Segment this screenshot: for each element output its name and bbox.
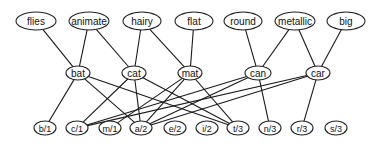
edge-metallic-can bbox=[263, 30, 289, 67]
node-label: r/3 bbox=[297, 124, 308, 134]
edge-metallic-car bbox=[299, 30, 315, 66]
edge-hairy-cat bbox=[135, 30, 141, 66]
node-label: e/2 bbox=[169, 124, 182, 134]
letter-node-r3: r/3 bbox=[291, 121, 313, 135]
attribute-node-flat: flat bbox=[175, 12, 213, 30]
letter-node-i2: i/2 bbox=[196, 121, 218, 135]
edge-cat-t3 bbox=[143, 78, 230, 124]
letter-nodes-layer: b/1c/1m/1a/2e/2i/2t/3n/3r/3s/3 bbox=[34, 121, 347, 135]
word-node-car: car bbox=[306, 66, 330, 80]
edge-flat-mat bbox=[191, 30, 194, 66]
letter-node-m1: m/1 bbox=[99, 121, 121, 135]
node-label: a/2 bbox=[135, 124, 148, 134]
letter-node-n3: n/3 bbox=[259, 121, 281, 135]
word-node-bat: bat bbox=[66, 66, 90, 80]
letter-node-a2: a/2 bbox=[130, 121, 152, 135]
attribute-node-round: round bbox=[224, 12, 262, 30]
node-label: m/1 bbox=[102, 124, 117, 134]
letter-node-t3: t/3 bbox=[227, 121, 249, 135]
edge-cat-c1 bbox=[83, 79, 128, 122]
edge-hairy-mat bbox=[150, 29, 185, 67]
edge-round-can bbox=[246, 30, 256, 66]
attribute-node-hairy: hairy bbox=[123, 12, 161, 30]
node-label: metallic bbox=[278, 16, 312, 27]
node-label: hairy bbox=[131, 16, 153, 27]
attribute-nodes-layer: fliesanimatehairyflatroundmetallicbig bbox=[16, 12, 365, 30]
word-nodes-layer: batcatmatcancar bbox=[66, 66, 330, 80]
attribute-node-metallic: metallic bbox=[275, 12, 315, 30]
edge-flies-bat bbox=[43, 29, 73, 66]
node-label: n/3 bbox=[264, 124, 277, 134]
letter-node-e2: e/2 bbox=[164, 121, 186, 135]
node-label: can bbox=[250, 68, 266, 79]
edge-bat-b1 bbox=[49, 80, 74, 122]
node-label: t/3 bbox=[233, 124, 243, 134]
edge-animate-cat bbox=[96, 29, 128, 66]
node-label: round bbox=[230, 16, 256, 27]
node-label: c/1 bbox=[71, 124, 83, 134]
letter-node-s3: s/3 bbox=[325, 121, 347, 135]
node-label: big bbox=[339, 16, 352, 27]
node-label: flies bbox=[27, 16, 45, 27]
attribute-node-big: big bbox=[327, 12, 365, 30]
node-label: i/2 bbox=[202, 124, 212, 134]
node-label: bat bbox=[71, 68, 85, 79]
letter-node-c1: c/1 bbox=[66, 121, 88, 135]
word-node-cat: cat bbox=[122, 66, 146, 80]
node-label: b/1 bbox=[39, 124, 52, 134]
letter-node-b1: b/1 bbox=[34, 121, 56, 135]
node-label: s/3 bbox=[330, 124, 342, 134]
node-label: animate bbox=[71, 16, 107, 27]
node-label: car bbox=[311, 68, 326, 79]
edge-big-car bbox=[322, 30, 342, 67]
edge-car-r3 bbox=[304, 80, 316, 121]
edge-car-c1 bbox=[87, 76, 306, 126]
edge-can-c1 bbox=[87, 76, 247, 125]
word-node-mat: mat bbox=[178, 66, 202, 80]
node-label: mat bbox=[182, 68, 199, 79]
word-node-can: can bbox=[245, 66, 271, 80]
edge-animate-bat bbox=[79, 30, 87, 66]
node-label: cat bbox=[127, 68, 141, 79]
network-diagram: fliesanimatehairyflatroundmetallicbig ba… bbox=[0, 0, 379, 144]
attribute-node-flies: flies bbox=[16, 12, 56, 30]
node-label: flat bbox=[187, 16, 201, 27]
attribute-node-animate: animate bbox=[69, 12, 109, 30]
